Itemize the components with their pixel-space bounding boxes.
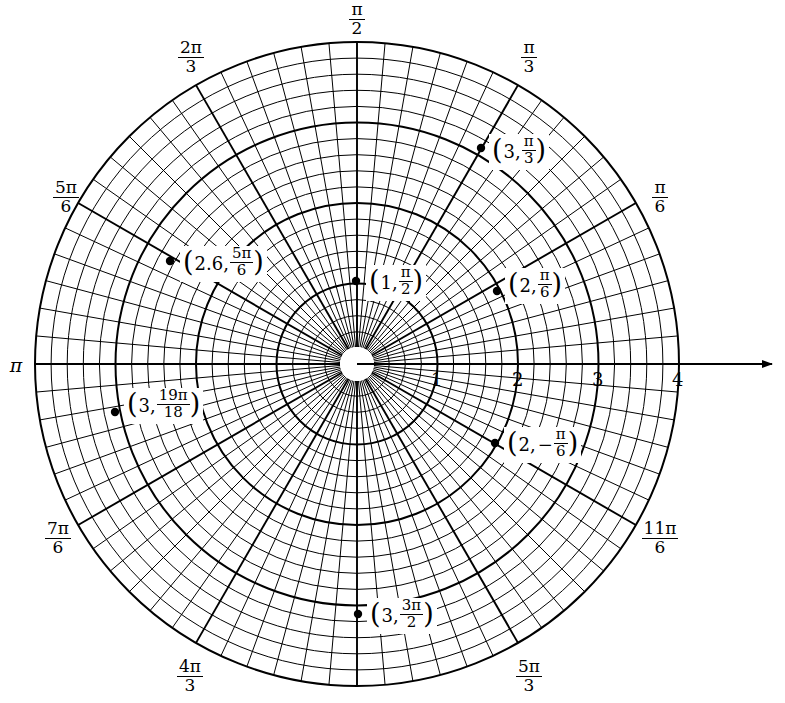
angle-label-a-4pi-3: 4π3	[150, 659, 230, 696]
point-1-pi-over-2-label: (1,π2)	[366, 265, 426, 301]
point-3-19pi-over-18-dot	[111, 408, 119, 416]
point-2-pi-over-6-label: (2,π6)	[505, 268, 565, 304]
point-2-negative-pi-over-6-dot	[491, 439, 499, 447]
radial-tick-1: 1	[431, 369, 442, 390]
point-1-pi-over-2-dot	[352, 277, 360, 285]
radial-tick-3: 3	[592, 369, 603, 390]
polar-plot-figure: π22π35π6π7π64π35π311π6π6π3 1234 (3,π3)(2…	[0, 0, 785, 703]
point-2point6-5pi-over-6-label: (2.6,5π6)	[180, 246, 267, 282]
angle-label-a-pi: π	[0, 356, 56, 375]
angle-label-a-pi-6: π6	[620, 180, 700, 217]
point-3-19pi-over-18-label: (3,19π18)	[124, 388, 203, 424]
point-3-pi-over-3-dot	[477, 144, 485, 152]
radial-tick-4: 4	[672, 369, 683, 390]
point-2-negative-pi-over-6-label: (2,−π6)	[504, 427, 581, 463]
angle-label-a-11pi-6: 11π6	[620, 521, 700, 558]
point-2-pi-over-6-dot	[493, 287, 501, 295]
angle-label-a-5pi-6: 5π6	[26, 180, 106, 217]
point-3-3pi-over-2-label: (3,3π2)	[367, 598, 437, 634]
angle-label-a-5pi-3: 5π3	[489, 659, 569, 696]
angle-label-a-pi-2: π2	[317, 2, 397, 39]
angle-label-a-2pi-3: 2π3	[151, 40, 231, 77]
angle-label-a-7pi-6: 7π6	[18, 521, 98, 558]
radial-tick-2: 2	[512, 369, 523, 390]
angle-label-a-pi-3: π3	[489, 40, 569, 77]
point-3-3pi-over-2-dot	[354, 610, 362, 618]
point-2point6-5pi-over-6-dot	[166, 257, 174, 265]
point-3-pi-over-3-label: (3,π3)	[489, 134, 549, 170]
